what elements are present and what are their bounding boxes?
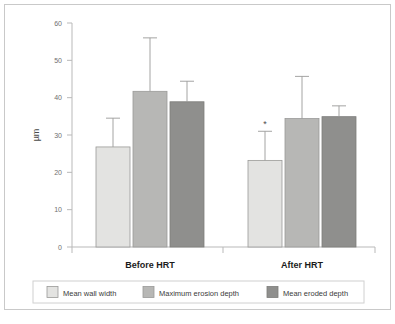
bar-before-mean-eroded-depth <box>170 102 204 247</box>
group-label-after-hrt: After HRT <box>281 260 324 270</box>
y-tick-label-20: 20 <box>54 169 62 176</box>
legend-swatch-mean-wall-width <box>47 287 58 298</box>
bar-before-mean-wall-width <box>96 147 130 247</box>
bar-after-mean-wall-width <box>248 160 282 247</box>
legend-swatch-maximum-erosion-depth <box>143 287 154 298</box>
y-tick-label-0: 0 <box>58 244 62 251</box>
bar-after-maximum-erosion-depth <box>285 119 319 247</box>
legend-swatch-mean-eroded-depth <box>267 287 278 298</box>
y-tick-label-50: 50 <box>54 57 62 64</box>
bar-before-maximum-erosion-depth <box>133 91 167 247</box>
figure-frame: 0 10 20 30 40 50 60 µm <box>4 4 391 310</box>
figure-container: 0 10 20 30 40 50 60 µm <box>0 0 395 324</box>
legend-label-mean-wall-width: Mean wall width <box>63 289 116 298</box>
legend-label-mean-eroded-depth: Mean eroded depth <box>283 289 348 298</box>
y-tick-label-30: 30 <box>54 132 62 139</box>
bar-after-mean-eroded-depth <box>322 117 356 247</box>
legend-label-maximum-erosion-depth: Maximum erosion depth <box>159 289 239 298</box>
significance-asterisk: * <box>263 119 267 129</box>
y-tick-label-10: 10 <box>54 206 62 213</box>
group-label-before-hrt: Before HRT <box>125 260 175 270</box>
y-tick-label-40: 40 <box>54 94 62 101</box>
y-axis-title: µm <box>31 129 41 142</box>
bar-chart: 0 10 20 30 40 50 60 µm <box>5 5 392 311</box>
y-tick-label-60: 60 <box>54 20 62 27</box>
